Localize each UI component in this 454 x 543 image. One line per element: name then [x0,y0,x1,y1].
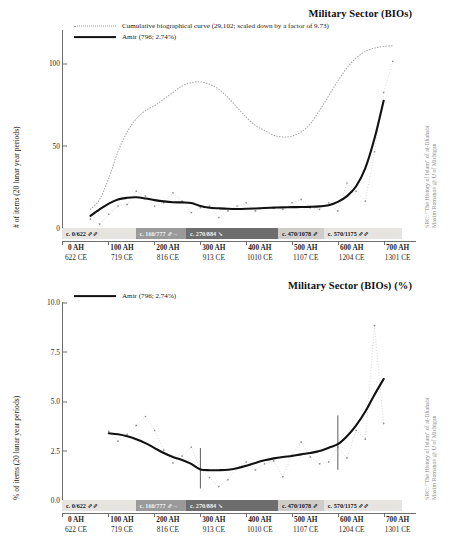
data-point [236,205,238,207]
x-tick-label-ah: 200 AH [156,515,179,525]
period-band-segment[interactable]: c. 0/622 ⇗⇗ [62,500,136,511]
x-tick-label-ce: 1301 CE [385,253,411,263]
data-point [255,210,257,212]
x-tick-mark [200,513,201,517]
x-tick-label: 700 AH1301 CE [385,243,411,262]
legend-percent: Amir (796; 2.74%) [72,291,176,302]
period-band-segment[interactable]: c. 570/1175 ⇗⇗ [324,228,402,239]
period-band-segment[interactable]: c. 470/1078 ⇗ [278,228,324,239]
series-canvas-counts [63,30,402,227]
source-line-2: Maxim Romanov @ U of Michigan [431,126,438,228]
x-tick-label: 600 AH1204 CE [339,243,365,262]
data-point [383,423,385,425]
x-tick-label-ce: 1107 CE [293,253,318,263]
data-point [328,202,330,204]
x-tick-mark [62,513,63,517]
period-band-label: c. 160/777 ⇗→ [136,502,179,509]
x-tick-label-ah: 600 AH [339,515,365,525]
data-point [190,446,192,448]
x-tick-mark [154,513,155,517]
x-tick-label: 0 AH622 CE [65,243,87,262]
series-canvas-percent [63,302,402,499]
period-band-percent: c. 0/622 ⇗⇗c. 160/777 ⇗→c. 270/884 ↘c. 4… [62,500,402,511]
raw-data-polyline [90,61,392,224]
data-point [346,182,348,184]
y-tick-label: 2.5 [51,446,63,455]
data-point [319,208,321,210]
data-point [255,469,257,471]
data-point [145,416,147,418]
data-point [245,202,247,204]
x-tick-label: 100 AH719 CE [110,243,133,262]
data-point [374,151,376,153]
x-tick-label-ah: 400 AH [247,515,273,525]
x-tick-label-ah: 700 AH [385,515,411,525]
plot-area-counts: 050100 [62,30,402,228]
y-tick-label: 10.0 [47,298,63,307]
x-tick-label-ce: 622 CE [65,525,87,535]
source-note-percent: SRC: "The History of Islam" of al-Dhahab… [424,398,439,500]
x-tick-label-ah: 0 AH [65,515,87,525]
data-point [300,199,302,201]
data-point [383,92,385,94]
period-band-segment[interactable]: c. 470/1078 ⇗ [278,500,324,511]
period-band-segment[interactable]: c. 160/777 ⇗→ [136,500,187,511]
data-point [218,217,220,219]
x-tick-label: 300 AH913 CE [202,243,225,262]
data-point [108,430,110,432]
x-tick-label-ah: 100 AH [110,515,133,525]
x-tick-label: 200 AH816 CE [156,515,179,534]
x-tick-label: 600 AH1204 CE [339,515,365,534]
data-point [90,218,92,220]
y-axis-label-percent: % of items (20 lunar year periods) [12,396,21,500]
data-point [245,461,247,463]
period-band-segment[interactable]: c. 0/622 ⇗⇗ [62,228,136,239]
data-point [364,438,366,440]
period-band-label: c. 570/1175 ⇗⇗ [324,230,369,237]
chart-panel-counts: Military Sector (BIOs) Cumulative biogra… [0,0,454,272]
chart-panel-percent: Military Sector (BIOs) (%) Amir (796; 2.… [0,272,454,543]
y-tick-label: 100 [49,59,63,68]
period-band-label: c. 470/1078 ⇗ [278,502,318,509]
period-band-label: c. 160/777 ⇗→ [136,230,179,237]
data-point [355,190,357,192]
legend-label: Cumulative biographical curve (29,102; s… [118,22,329,30]
period-band-segment[interactable]: c. 570/1175 ⇗⇗ [324,500,402,511]
x-tick-label: 0 AH622 CE [65,515,87,534]
x-tick-label-ah: 600 AH [339,243,365,253]
period-band-label: c. 270/884 ↘ [186,230,223,237]
data-point [227,479,229,481]
x-tick-label-ah: 400 AH [247,243,273,253]
legend-item[interactable]: Amir (796; 2.74%) [72,291,176,301]
period-band-segment[interactable]: c. 160/777 ⇗→ [136,228,187,239]
x-tick-label: 100 AH719 CE [110,515,133,534]
data-point [282,208,284,210]
chart-title-counts: Military Sector (BIOs) [309,8,412,19]
source-line-1: SRC: "The History of Islam" of al-Dhahab… [424,126,431,228]
data-point [154,429,156,431]
period-band-counts: c. 0/622 ⇗⇗c. 160/777 ⇗→c. 270/884 ↘c. 4… [62,228,402,239]
x-tick-label-ah: 0 AH [65,243,87,253]
x-tick-mark [62,241,63,245]
x-tick-mark [108,513,109,517]
data-point [99,223,101,225]
x-tick-label: 400 AH1010 CE [247,515,273,534]
period-band-segment[interactable]: c. 270/884 ↘ [186,228,278,239]
data-point [337,210,339,212]
x-tick-label-ce: 719 CE [110,525,133,535]
cumulative-curve [90,46,392,210]
x-tick-label-ce: 816 CE [156,253,179,263]
main-series-curve [90,101,383,216]
data-point [209,477,211,479]
x-tick-label-ce: 1010 CE [247,253,273,263]
source-line-1: SRC: "The History of Islam" of al-Dhahab… [424,398,431,500]
legend-label: Amir (796; 2.74%) [118,292,176,300]
x-tick-label-ce: 1010 CE [247,525,273,535]
x-tick-label-ce: 913 CE [202,253,225,263]
data-point [117,440,119,442]
period-band-label: c. 0/622 ⇗⇗ [62,502,98,509]
x-tick-mark [200,241,201,245]
period-band-segment[interactable]: c. 270/884 ↘ [186,500,278,511]
y-tick-label: 7.5 [51,347,63,356]
data-point [264,463,266,465]
